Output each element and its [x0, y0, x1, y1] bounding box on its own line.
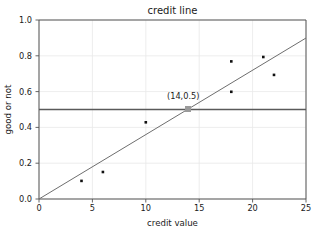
x-axis-title: credit value	[147, 218, 198, 228]
data-point	[273, 74, 276, 77]
xtick-label-0: 0	[36, 203, 41, 213]
data-point	[80, 180, 83, 183]
ytick-label-0.2: 0.2	[19, 158, 32, 168]
annotation-label-intersection: (14,0.5)	[167, 91, 199, 101]
xtick-label-10: 10	[141, 203, 151, 213]
ytick-label-0.6: 0.6	[19, 87, 32, 97]
data-point	[102, 171, 105, 174]
chart-title: credit line	[148, 5, 198, 16]
data-point	[230, 91, 233, 94]
chart-figure: 0 5 10 15 20 25 0.0 0.2 0.4 0.6 0.8 1.0	[0, 0, 321, 233]
ytick-label-0.4: 0.4	[19, 122, 32, 132]
ytick-label-0.8: 0.8	[19, 51, 32, 61]
y-axis-title: good or not	[3, 84, 13, 134]
data-point	[230, 60, 233, 63]
ytick-label-0.0: 0.0	[19, 194, 32, 204]
highlight-marker-point	[185, 106, 191, 112]
xtick-label-20: 20	[247, 203, 257, 213]
xtick-label-5: 5	[90, 203, 95, 213]
data-point	[145, 121, 148, 124]
data-point	[262, 56, 265, 59]
xtick-label-15: 15	[194, 203, 204, 213]
credit-line-scatter-chart: 0 5 10 15 20 25 0.0 0.2 0.4 0.6 0.8 1.0	[0, 0, 321, 233]
ytick-label-1.0: 1.0	[19, 15, 32, 25]
xtick-label-25: 25	[301, 203, 311, 213]
